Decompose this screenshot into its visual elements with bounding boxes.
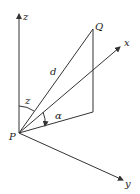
x-axis-label: x [124,37,130,48]
x-axis [19,47,120,133]
z-axis-label: z [22,11,29,22]
coordinate-diagram: z x y Q P d z α [0,0,140,194]
elevation-angle-label: α [55,110,62,121]
distance-label: d [50,66,56,77]
elevation-angle-arc [43,112,45,126]
zenith-angle-arc [19,106,34,111]
y-axis-label: y [124,178,131,189]
zenith-angle-label: z [24,95,31,106]
point-q-label: Q [95,21,103,32]
point-p-label: P [8,131,16,142]
y-axis [19,133,123,180]
